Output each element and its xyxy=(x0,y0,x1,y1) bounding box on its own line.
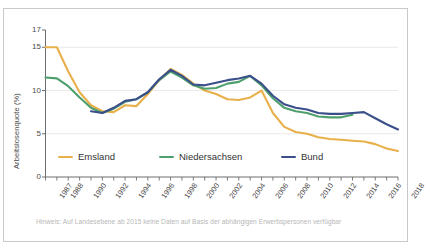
legend-label-emsland: Emsland xyxy=(78,152,115,162)
y-axis-tick-label: 5 xyxy=(25,130,41,138)
legend-label-niedersachsen: Niedersachsen xyxy=(179,152,242,162)
legend-label-bund: Bund xyxy=(301,152,323,162)
y-axis-tick-label: 17 xyxy=(25,26,41,34)
y-axis-title: Arbeitslosenquote (%) xyxy=(12,93,21,169)
chart-footnote: Hinweis: Auf Landesebene ab 2015 keine D… xyxy=(36,218,341,225)
y-axis-tick-label: 10 xyxy=(25,87,41,95)
y-axis-tick-label: 15 xyxy=(25,43,41,51)
y-axis-tick-label: 0 xyxy=(25,173,41,181)
